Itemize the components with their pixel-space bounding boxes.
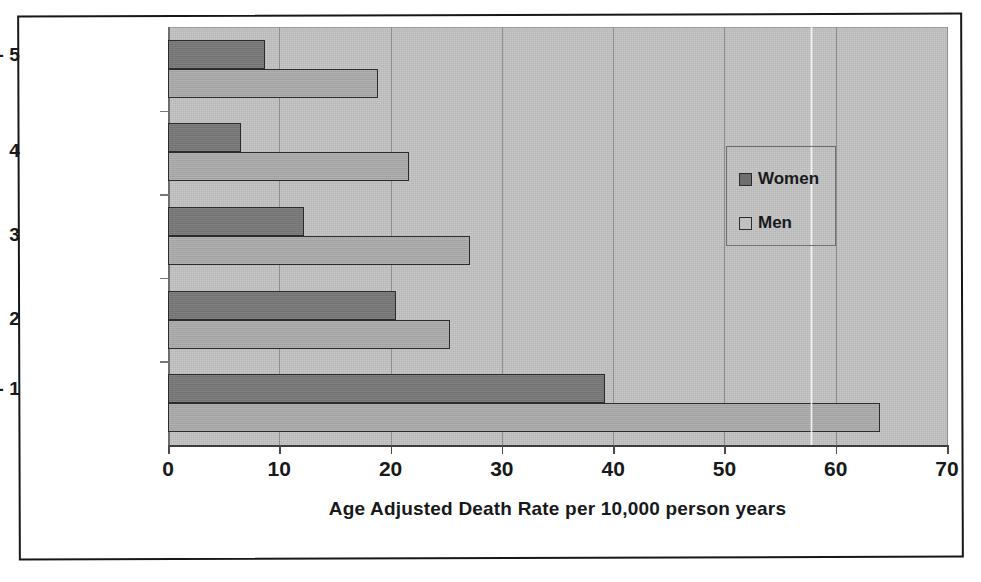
x-tick-50 <box>724 445 726 454</box>
legend: WomenMen <box>726 146 836 246</box>
category-label-1: High Fitness - 5 <box>0 43 20 66</box>
category-tick-3 <box>160 278 169 280</box>
legend-entry-men: Men <box>739 213 792 233</box>
x-tick-70 <box>947 445 949 454</box>
category-tick-1 <box>160 111 169 113</box>
x-tick-label-10: 10 <box>244 457 314 481</box>
bar-women-cat1 <box>168 40 265 69</box>
plot-top-border <box>168 27 947 28</box>
legend-label-men: Men <box>758 213 792 233</box>
category-label-4: 2 <box>0 307 20 330</box>
x-tick-40 <box>613 445 615 454</box>
category-tick-2 <box>160 194 169 196</box>
figure-caption <box>20 569 350 582</box>
bar-women-cat4 <box>168 291 396 320</box>
bar-women-cat5 <box>168 374 605 403</box>
gridline-70 <box>947 27 948 445</box>
bar-women-cat3 <box>168 207 304 236</box>
category-label-5: Low Fitness - 1 <box>0 377 20 400</box>
value-axis-line <box>168 445 947 447</box>
gridline-40 <box>613 27 614 445</box>
x-axis-title: Age Adjusted Death Rate per 10,000 perso… <box>168 498 947 520</box>
bar-men-cat4 <box>168 320 450 349</box>
x-tick-label-40: 40 <box>578 457 648 481</box>
category-label-2: 4 <box>0 139 20 162</box>
bar-men-cat1 <box>168 69 378 98</box>
bar-men-cat3 <box>168 236 470 265</box>
x-tick-label-60: 60 <box>801 457 871 481</box>
x-tick-20 <box>391 445 393 454</box>
legend-swatch-women-icon <box>739 173 752 186</box>
x-tick-10 <box>279 445 281 454</box>
legend-swatch-men-icon <box>739 217 752 230</box>
x-tick-label-70: 70 <box>912 457 981 481</box>
x-tick-label-50: 50 <box>689 457 759 481</box>
x-tick-30 <box>502 445 504 454</box>
x-tick-60 <box>836 445 838 454</box>
x-tick-label-0: 0 <box>133 457 203 481</box>
legend-entry-women: Women <box>739 169 819 189</box>
bar-men-cat2 <box>168 152 409 181</box>
x-tick-label-20: 20 <box>356 457 426 481</box>
x-tick-label-30: 30 <box>467 457 537 481</box>
bar-women-cat2 <box>168 123 241 152</box>
bar-chart: High Fitness - 5432Low Fitness - 1 01020… <box>0 0 981 582</box>
category-tick-4 <box>160 361 169 363</box>
category-label-3: 3 <box>0 223 20 246</box>
legend-label-women: Women <box>758 169 819 189</box>
bar-men-cat5 <box>168 403 880 432</box>
x-tick-0 <box>168 445 170 454</box>
